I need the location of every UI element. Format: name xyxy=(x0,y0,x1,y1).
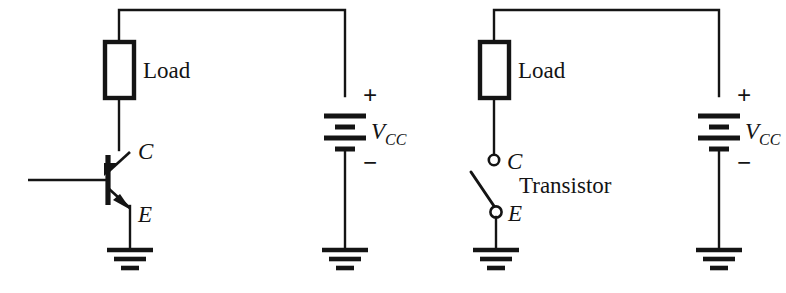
load-label: Load xyxy=(143,58,191,83)
battery-ground-symbol xyxy=(322,250,368,268)
open-switch-symbol xyxy=(471,155,502,248)
supply-label: VCC xyxy=(371,119,407,148)
collector-label: C xyxy=(507,149,523,174)
emitter-label: E xyxy=(137,202,152,227)
collector-label: C xyxy=(138,139,154,164)
top-supply-wire xyxy=(494,10,719,96)
load-label: Load xyxy=(518,58,566,83)
supply-plus-sign: + xyxy=(363,82,377,109)
load-box xyxy=(105,42,134,98)
battery-ground-symbol xyxy=(696,250,742,268)
device-label: Transistor xyxy=(519,173,612,198)
emitter-ground-symbol xyxy=(473,250,519,268)
top-supply-wire xyxy=(119,10,345,96)
load-box xyxy=(480,42,509,98)
supply-battery xyxy=(324,116,366,248)
supply-label-subscript: CC xyxy=(759,131,781,148)
supply-label: VCC xyxy=(745,119,781,148)
supply-minus-sign: − xyxy=(737,149,751,176)
switch-blade xyxy=(471,172,496,209)
switch-equivalent-circuit: Load C E Transistor xyxy=(471,10,781,268)
emitter-label: E xyxy=(507,201,522,226)
supply-minus-sign: − xyxy=(363,149,377,176)
circuit-figure: Load C E xyxy=(0,0,786,293)
transistor-circuit: Load C E xyxy=(28,10,407,268)
supply-battery xyxy=(698,116,740,248)
collector-terminal xyxy=(489,155,499,165)
npn-transistor-symbol xyxy=(28,152,131,248)
emitter-ground-symbol xyxy=(107,250,153,268)
supply-label-subscript: CC xyxy=(385,131,407,148)
supply-plus-sign: + xyxy=(737,82,751,109)
circuit-canvas: Load C E xyxy=(0,0,786,293)
